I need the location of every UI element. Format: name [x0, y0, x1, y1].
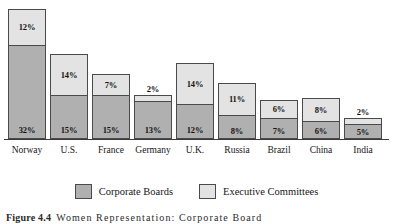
bar-segment-executive-committees[interactable]: 8% [302, 98, 340, 121]
bar-segment-corporate-boards[interactable]: 6% [302, 121, 340, 139]
legend-swatch-icon [199, 184, 216, 199]
bar-segment-label: 15% [61, 126, 78, 135]
bar-segment-corporate-boards[interactable]: 32% [8, 45, 46, 139]
bar-segment-executive-committees[interactable]: 11% [218, 83, 256, 115]
category-label-india: India [337, 143, 389, 157]
legend-swatch-icon [75, 184, 92, 199]
bar-segment-corporate-boards[interactable]: 15% [50, 95, 88, 139]
legend-label: Corporate Boards [99, 186, 173, 197]
bar-segment-label: 12% [187, 126, 204, 135]
bar-group-china[interactable]: 8% 6% [302, 98, 340, 139]
bar-segment-label: 14% [61, 71, 78, 80]
legend-item-corporate-boards[interactable]: Corporate Boards [75, 184, 173, 199]
bar-segment-label: 8% [231, 127, 244, 136]
figure-caption: Figure 4.4Women Representation: Corporat… [6, 212, 386, 223]
bar-segment-executive-committees[interactable]: 14% [50, 54, 88, 95]
figure-women-representation-chart: 12% 32% 14% 15% 7% 15% [0, 0, 393, 224]
bar-segment-label: 8% [315, 106, 328, 115]
bar-segment-corporate-boards[interactable]: 7% [260, 118, 298, 139]
bar-segment-corporate-boards[interactable]: 8% [218, 115, 256, 139]
bar-segment-corporate-boards[interactable]: 15% [92, 95, 130, 139]
bar-group-norway[interactable]: 12% 32% [8, 9, 46, 139]
bar-segment-label: 12% [19, 23, 36, 32]
figure-caption-text: Women Representation: Corporate Board [56, 212, 262, 223]
bar-group-france[interactable]: 7% 15% [92, 74, 130, 139]
bar-segment-label: 7% [105, 81, 118, 90]
bar-segment-label: 32% [19, 126, 36, 135]
bar-segment-label: 13% [145, 126, 162, 135]
bar-segment-label: 2% [345, 108, 381, 117]
x-axis-line [4, 139, 389, 140]
bar-group-india[interactable]: 2% 5% [344, 118, 382, 139]
bar-segment-corporate-boards[interactable]: 12% [176, 104, 214, 139]
bar-segment-executive-committees[interactable]: 12% [8, 9, 46, 45]
bar-segment-label: 2% [135, 85, 171, 94]
x-axis-category-labels: Norway U.S. France Germany U.K. Russia B… [6, 143, 387, 159]
bar-segment-label: 14% [187, 80, 204, 89]
legend-item-executive-committees[interactable]: Executive Committees [199, 184, 318, 199]
bar-group-germany[interactable]: 2% 13% [134, 95, 172, 139]
bar-segment-executive-committees[interactable]: 14% [176, 63, 214, 104]
bar-segment-label: 15% [103, 126, 120, 135]
bar-segment-label: 7% [273, 127, 286, 136]
bar-segment-label: 6% [273, 105, 286, 114]
bar-group-uk[interactable]: 14% 12% [176, 63, 214, 139]
bar-group-brazil[interactable]: 6% 7% [260, 100, 298, 139]
figure-caption-number: Figure 4.4 [6, 212, 51, 223]
bar-segment-label: 11% [229, 95, 245, 104]
bar-group-us[interactable]: 14% 15% [50, 54, 88, 139]
bar-segment-label: 6% [315, 127, 328, 136]
legend-label: Executive Committees [223, 186, 318, 197]
bar-segment-corporate-boards[interactable]: 5% [344, 124, 382, 139]
bar-segment-executive-committees[interactable]: 7% [92, 74, 130, 95]
chart-plot-area: 12% 32% 14% 15% 7% 15% [6, 4, 387, 139]
chart-legend: Corporate Boards Executive Committees [0, 181, 393, 201]
bar-segment-corporate-boards[interactable]: 13% [134, 101, 172, 139]
bar-segment-label: 5% [357, 128, 370, 137]
bar-group-russia[interactable]: 11% 8% [218, 83, 256, 139]
bar-segment-executive-committees[interactable]: 6% [260, 100, 298, 118]
